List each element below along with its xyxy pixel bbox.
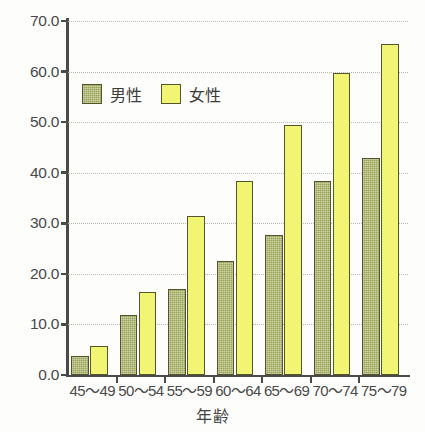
y-axis-tick xyxy=(61,273,68,276)
y-axis-tick-label: 10.0 xyxy=(30,315,59,333)
bar-female[interactable] xyxy=(236,181,254,375)
y-axis-tick-label: 20.0 xyxy=(30,265,59,283)
bar-female[interactable] xyxy=(284,125,302,375)
y-axis-tick xyxy=(61,70,68,73)
bar-group xyxy=(359,21,408,375)
legend-label-female: 女性 xyxy=(189,82,221,106)
bar-female[interactable] xyxy=(90,346,108,375)
y-axis-tick-label: 70.0 xyxy=(30,12,59,30)
plot-area: 70.060.050.040.030.020.010.00.0 xyxy=(68,21,408,375)
bar-female[interactable] xyxy=(333,73,351,375)
y-axis-tick xyxy=(61,20,68,23)
y-axis-tick xyxy=(61,323,68,326)
bar-male[interactable] xyxy=(217,261,235,375)
bar-group xyxy=(214,21,263,375)
bar-group xyxy=(68,21,117,375)
legend-item-male: 男性 xyxy=(82,82,142,106)
legend-item-female: 女性 xyxy=(161,82,221,106)
y-axis-tick-label: 50.0 xyxy=(30,113,59,131)
y-axis-tick xyxy=(61,121,68,124)
y-axis-tick-label: 40.0 xyxy=(30,164,59,182)
bar-male[interactable] xyxy=(120,315,138,375)
bar-male[interactable] xyxy=(71,356,89,375)
bar-chart: 70.060.050.040.030.020.010.00.0 男性 女性 年齢… xyxy=(0,0,425,432)
bar-male[interactable] xyxy=(265,235,283,375)
legend-swatch-female-icon xyxy=(161,84,181,104)
bar-group xyxy=(165,21,214,375)
bar-female[interactable] xyxy=(381,44,399,375)
bar-male[interactable] xyxy=(314,181,332,375)
y-axis-tick-label: 0.0 xyxy=(38,366,59,384)
bar-group xyxy=(117,21,166,375)
y-axis-tick-label: 30.0 xyxy=(30,214,59,232)
y-axis-tick xyxy=(61,374,68,377)
bar-male[interactable] xyxy=(362,158,380,375)
bar-female[interactable] xyxy=(139,292,157,375)
bar-female[interactable] xyxy=(187,216,205,375)
y-axis-tick xyxy=(61,222,68,225)
bar-group xyxy=(311,21,360,375)
y-axis-tick-label: 60.0 xyxy=(30,63,59,81)
bar-male[interactable] xyxy=(168,289,186,375)
x-axis-tick-label: 75～79 xyxy=(355,379,412,400)
chart-legend: 男性 女性 xyxy=(82,82,221,106)
legend-swatch-male-icon xyxy=(82,84,102,104)
y-axis-tick xyxy=(61,171,68,174)
legend-label-male: 男性 xyxy=(110,82,142,106)
x-axis-title: 年齢 xyxy=(0,403,425,427)
bar-group xyxy=(262,21,311,375)
